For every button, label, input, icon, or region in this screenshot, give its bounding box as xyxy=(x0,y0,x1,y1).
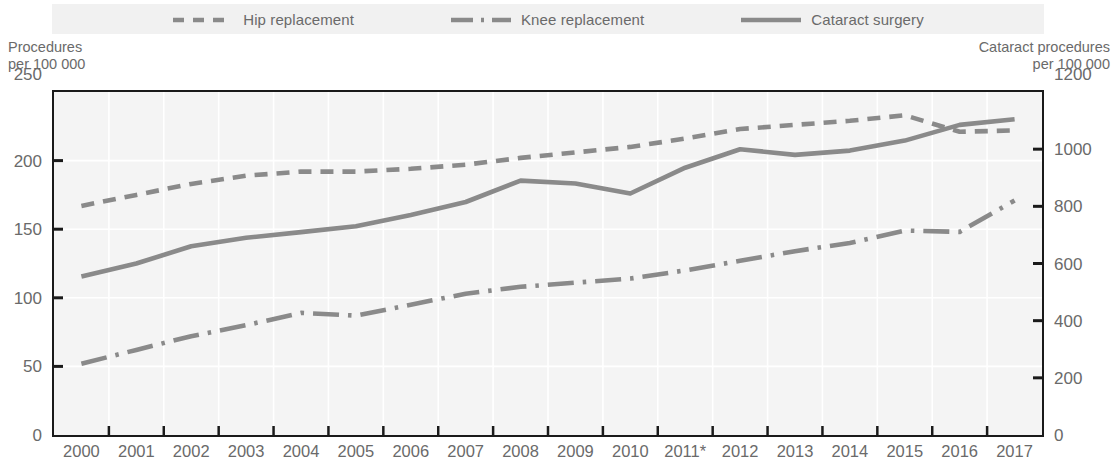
dash-dot-line-icon xyxy=(450,17,512,22)
y-axis-left-tick-250: 250 xyxy=(0,66,42,83)
y-axis-right-tick-200: 200 xyxy=(1054,370,1114,387)
plot-canvas xyxy=(54,92,1042,435)
y-axis-right-tick-600: 600 xyxy=(1054,256,1114,273)
x-axis-tick-2017: 2017 xyxy=(983,443,1047,460)
chart-legend: Hip replacement Knee replacement Catarac… xyxy=(52,4,1044,34)
y-axis-left-tick-50: 50 xyxy=(0,358,42,375)
left-axis-title-line1: Procedures xyxy=(8,39,82,55)
legend-item-knee-replacement: Knee replacement xyxy=(450,11,644,28)
y-axis-left-tick-200: 200 xyxy=(0,153,42,170)
y-axis-left-tick-150: 150 xyxy=(0,221,42,238)
y-axis-right-tick-800: 800 xyxy=(1054,198,1114,215)
y-axis-right-tick-0: 0 xyxy=(1054,427,1114,444)
y-axis-left-tick-0: 0 xyxy=(0,427,42,444)
y-axis-right-tick-1000: 1000 xyxy=(1054,141,1114,158)
solid-line-icon xyxy=(740,17,802,22)
legend-label-cataract-surgery: Cataract surgery xyxy=(811,11,923,28)
y-axis-right-tick-1200: 1200 xyxy=(1054,66,1114,83)
plot-area xyxy=(52,90,1044,437)
legend-item-cataract-surgery: Cataract surgery xyxy=(740,11,923,28)
y-axis-left-tick-100: 100 xyxy=(0,290,42,307)
y-axis-right-tick-400: 400 xyxy=(1054,313,1114,330)
dashed-line-icon xyxy=(172,17,234,22)
legend-label-hip-replacement: Hip replacement xyxy=(243,11,354,28)
legend-item-hip-replacement: Hip replacement xyxy=(172,11,354,28)
chart-figure: Hip replacement Knee replacement Catarac… xyxy=(0,0,1116,464)
right-axis-title-line1: Cataract procedures xyxy=(979,39,1110,55)
legend-label-knee-replacement: Knee replacement xyxy=(521,11,644,28)
